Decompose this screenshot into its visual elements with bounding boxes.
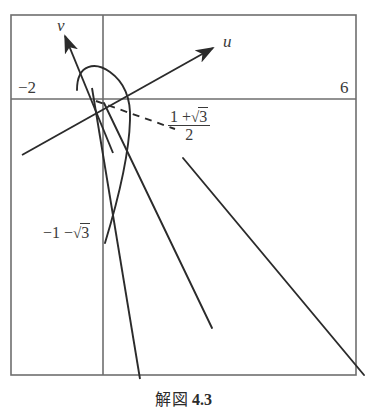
right-tick-label: 6: [340, 78, 349, 98]
fraction: 1 +√3 2: [168, 108, 210, 144]
plot-frame: [11, 15, 356, 375]
v-axis-label: v: [57, 16, 65, 36]
fraction-numerator: 1 +√3: [168, 108, 210, 126]
u-axis-label: u: [223, 32, 232, 52]
sqrt-icon: √3: [191, 108, 208, 125]
root-label-one-plus-sqrt-three-over-two: 1 +√3 2: [168, 108, 210, 144]
v-axis-arrow: [65, 36, 113, 153]
line-long-right: [183, 158, 364, 375]
caption-text: 解図: [155, 391, 188, 408]
fraction-denominator: 2: [168, 126, 210, 143]
radicand: 3: [198, 107, 208, 125]
figure-canvas: [0, 0, 367, 415]
line-steep-left: [92, 88, 140, 379]
root-label-minus-one-minus-sqrt-three: −1 −√3: [43, 224, 90, 242]
figure-caption: 解図4.3: [0, 386, 367, 410]
dashed-asymptote: [96, 101, 175, 129]
negative-root-lead-text: −1 −: [43, 224, 73, 241]
numerator-lead-text: 1 +: [170, 108, 191, 125]
figure-container: v u −2 6 1 +√3 2 −1 −√3 解図4.3: [0, 0, 367, 415]
caption-number: 4.3: [192, 391, 212, 408]
left-tick-label: −2: [18, 78, 36, 98]
radicand-2: 3: [80, 223, 90, 241]
sqrt-icon-2: √3: [73, 224, 90, 241]
